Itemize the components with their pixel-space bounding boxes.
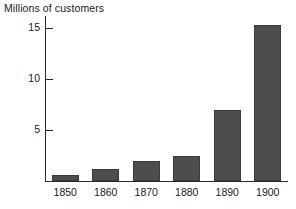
bar [254, 25, 281, 181]
x-axis-tick-label: 1850 [43, 187, 87, 198]
y-axis-tick [45, 130, 53, 131]
bar [92, 169, 119, 181]
x-axis-tick-label: 1900 [246, 187, 290, 198]
y-axis-title: Millions of customers [4, 2, 104, 14]
bar [214, 110, 241, 181]
x-axis-line [45, 181, 288, 182]
y-axis-tick-label: 10 [0, 73, 40, 84]
x-axis-tick-label: 1860 [84, 187, 128, 198]
bar [133, 161, 160, 181]
y-axis-line [45, 16, 46, 182]
x-axis-tick-label: 1870 [124, 187, 168, 198]
y-axis-tick-label: 5 [0, 124, 40, 135]
x-axis-tick-label: 1890 [205, 187, 249, 198]
bar [52, 175, 79, 181]
y-axis-tick-label: 15 [0, 22, 40, 33]
y-axis-tick [45, 79, 53, 80]
bar [173, 156, 200, 182]
y-axis-tick [45, 28, 53, 29]
bar-chart: Millions of customers 51015 185018601870… [0, 0, 296, 209]
x-axis-tick-label: 1880 [165, 187, 209, 198]
